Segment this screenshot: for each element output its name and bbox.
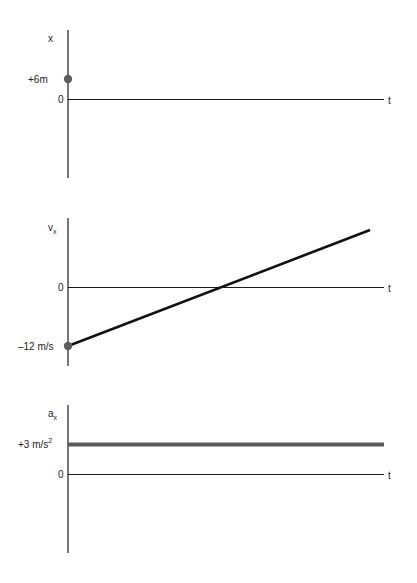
initial-position-dot [64,75,72,83]
marker-label: +6m [28,74,48,85]
y-axis-label: vx [48,222,57,235]
t-axis-label: t [388,283,391,294]
zero-label: 0 [58,94,64,105]
velocity-graph: vx –12 m/s 0 t [18,218,391,366]
acceleration-graph: ax +3 m/s2 0 t [18,405,391,553]
y-axis-label: x [48,33,53,44]
t-axis-label: t [388,95,391,106]
zero-label: 0 [58,282,64,293]
marker-label: +3 m/s2 [18,437,52,450]
motion-graphs: x +6m 0 t vx –12 m/s 0 t ax +3 m/s2 0 t [0,0,417,583]
t-axis-label: t [388,470,391,481]
zero-label: 0 [58,469,64,480]
marker-label: –12 m/s [18,341,54,352]
y-axis-label: ax [48,408,58,421]
position-graph: x +6m 0 t [28,30,391,178]
initial-velocity-dot [64,342,72,350]
